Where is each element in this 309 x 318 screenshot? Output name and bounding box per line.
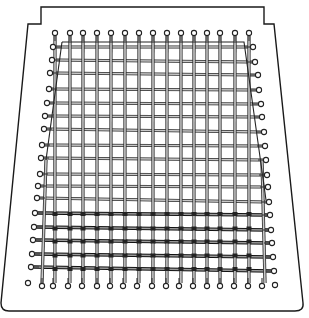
pin-icon <box>30 237 35 242</box>
pin-icon <box>259 114 264 119</box>
woven-knot <box>247 267 252 271</box>
pin-icon <box>262 143 267 148</box>
woven-knot <box>179 240 184 244</box>
woven-knot <box>137 212 142 216</box>
pin-icon <box>44 100 49 105</box>
woven-knot <box>81 267 86 271</box>
pin-icon <box>38 155 43 160</box>
pin-icon <box>34 195 39 200</box>
pin-icon <box>191 30 196 35</box>
pin-icon <box>268 227 273 232</box>
pin-icon <box>264 172 269 177</box>
pin-icon <box>272 282 277 287</box>
woven-knot <box>137 267 142 271</box>
pin-icon <box>270 254 275 259</box>
woven-knot <box>123 227 128 231</box>
pin-icon <box>267 212 272 217</box>
pin-icon <box>217 283 222 288</box>
woven-knot <box>192 212 197 216</box>
woven-knot <box>218 267 223 271</box>
pin-icon <box>46 86 51 91</box>
woven-knot <box>165 227 170 231</box>
woven-knot <box>247 227 252 231</box>
woven-knot <box>137 227 142 231</box>
woven-knot <box>95 267 100 271</box>
woven-knot <box>205 227 210 231</box>
woven-knot <box>179 212 184 216</box>
pin-icon <box>39 283 44 288</box>
pin-icon <box>31 224 36 229</box>
pin-icon <box>136 30 141 35</box>
woven-knot <box>95 212 100 216</box>
pin-icon <box>29 251 34 256</box>
pin-icon <box>41 126 46 131</box>
pin-icon <box>231 283 236 288</box>
woven-knot <box>109 227 114 231</box>
woven-knot <box>233 227 238 231</box>
woven-knot <box>95 227 100 231</box>
pin-icon <box>271 268 276 273</box>
woven-knot <box>95 240 100 244</box>
woven-knot <box>109 254 114 258</box>
woven-knot <box>81 254 86 258</box>
pin-icon <box>32 210 37 215</box>
pin-icon <box>258 101 263 106</box>
pin-icon <box>50 44 55 49</box>
pin-icon <box>25 280 30 285</box>
woven-knot <box>68 227 73 231</box>
woven-knot <box>233 240 238 244</box>
pin-icon <box>28 264 33 269</box>
woven-knot <box>205 212 210 216</box>
pin-icon <box>245 283 250 288</box>
pin-icon <box>217 30 222 35</box>
woven-knot <box>137 240 142 244</box>
woven-knot <box>123 240 128 244</box>
pin-icon <box>256 87 261 92</box>
woven-knot <box>81 227 86 231</box>
pin-icon <box>67 30 72 35</box>
woven-knot <box>165 267 170 271</box>
woven-knot <box>205 240 210 244</box>
woven-knot <box>123 254 128 258</box>
woven-knot <box>192 267 197 271</box>
woven-knot <box>165 254 170 258</box>
pin-icon <box>42 113 47 118</box>
pin-icon <box>164 30 169 35</box>
woven-knot <box>233 254 238 258</box>
pin-icon <box>232 30 237 35</box>
woven-knot <box>53 240 58 244</box>
woven-knot <box>151 240 156 244</box>
woven-knot <box>247 212 252 216</box>
loom-board-drawing <box>0 0 309 318</box>
woven-knot <box>151 227 156 231</box>
woven-knot <box>123 212 128 216</box>
woven-knot <box>247 254 252 258</box>
woven-knot <box>205 254 210 258</box>
woven-knot <box>165 212 170 216</box>
woven-knot <box>137 254 142 258</box>
pin-icon <box>178 30 183 35</box>
pin-icon <box>250 44 255 49</box>
woven-knot <box>179 254 184 258</box>
pin-icon <box>39 142 44 147</box>
woven-knot <box>205 267 210 271</box>
loom-illustration <box>0 0 309 318</box>
pin-icon <box>49 57 54 62</box>
woven-knot <box>109 240 114 244</box>
woven-knot <box>68 240 73 244</box>
woven-knot <box>179 267 184 271</box>
pin-icon <box>94 283 99 288</box>
pin-icon <box>65 283 70 288</box>
pin-icon <box>35 183 40 188</box>
pin-icon <box>259 283 264 288</box>
pin-icon <box>134 283 139 288</box>
pin-icon <box>176 283 181 288</box>
pin-icon <box>263 157 268 162</box>
woven-knot <box>151 254 156 258</box>
pin-icon <box>246 30 251 35</box>
woven-knot <box>151 212 156 216</box>
woven-knot <box>53 254 58 258</box>
pin-icon <box>266 199 271 204</box>
pin-icon <box>261 129 266 134</box>
woven-knot <box>53 267 58 271</box>
